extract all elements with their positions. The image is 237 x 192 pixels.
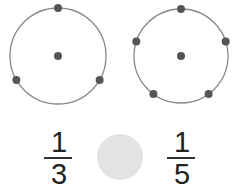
- numerator: 1: [44, 128, 74, 157]
- right-circle-fifths: [132, 5, 229, 103]
- comparison-blank-disc: [97, 134, 143, 180]
- point-dot: [205, 90, 213, 98]
- point-dot: [222, 38, 230, 46]
- center-dot: [54, 52, 62, 60]
- point-dot: [12, 76, 20, 84]
- point-dot: [54, 4, 62, 12]
- circle-diagram: [0, 0, 237, 192]
- point-dot: [132, 38, 140, 46]
- point-dot: [96, 76, 104, 84]
- center-dot: [177, 52, 185, 60]
- numerator: 1: [167, 128, 197, 157]
- denominator: 3: [44, 160, 74, 189]
- point-dot: [149, 90, 157, 98]
- left-circle-thirds: [10, 4, 106, 104]
- point-dot: [177, 5, 185, 13]
- denominator: 5: [167, 160, 197, 189]
